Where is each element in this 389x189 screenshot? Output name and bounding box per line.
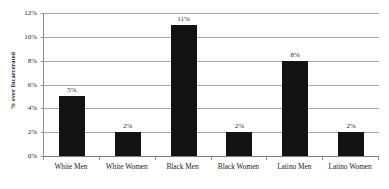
y-axis-tick-label: 12% — [24, 9, 37, 17]
x-axis-tick-mark — [211, 156, 212, 160]
bar-value-label: 2% — [123, 122, 132, 130]
bar — [226, 132, 252, 156]
x-axis-category-label: Black Women — [218, 162, 259, 171]
bar — [171, 25, 197, 156]
x-axis-category-label: White Men — [54, 162, 87, 171]
bar-value-label: 8% — [291, 51, 300, 59]
bar-chart: % ever Incarcerated 0%2%4%6%8%10%12% 5%2… — [0, 0, 389, 189]
bar — [338, 132, 364, 156]
y-axis-tick-label: 10% — [24, 33, 37, 41]
x-axis-tick-mark — [322, 156, 323, 160]
bar — [59, 96, 85, 156]
plot-area: 5%2%11%2%8%2% — [43, 13, 379, 156]
bar — [282, 61, 308, 156]
y-axis-tick-label: 0% — [28, 152, 37, 160]
x-axis-labels: White MenWhite WomenBlack MenBlack Women… — [43, 162, 378, 182]
bar-group: 2% — [100, 13, 156, 156]
bars-layer: 5%2%11%2%8%2% — [44, 13, 379, 156]
y-axis-tick-labels: 0%2%4%6%8%10%12% — [18, 0, 40, 189]
y-axis-tick-label: 2% — [28, 128, 37, 136]
x-axis-tick-mark — [155, 156, 156, 160]
x-axis-tick-mark — [99, 156, 100, 160]
bar-group: 11% — [156, 13, 212, 156]
bar-group: 2% — [323, 13, 379, 156]
x-axis-category-label: Latino Men — [277, 162, 311, 171]
bar-group: 2% — [212, 13, 268, 156]
bar-value-label: 2% — [346, 122, 355, 130]
y-axis-tick-label: 8% — [28, 57, 37, 65]
x-axis-tick-mark — [266, 156, 267, 160]
x-axis-category-label: Black Men — [166, 162, 198, 171]
x-axis-tick-mark — [43, 156, 44, 160]
bar — [115, 132, 141, 156]
bar-group: 5% — [44, 13, 100, 156]
y-axis-tick-label: 6% — [28, 81, 37, 89]
bar-value-label: 5% — [67, 86, 76, 94]
x-axis-tick-mark — [378, 156, 379, 160]
x-axis-category-label: White Women — [106, 162, 148, 171]
bar-value-label: 2% — [235, 122, 244, 130]
bar-value-label: 11% — [177, 15, 190, 23]
bar-group: 8% — [267, 13, 323, 156]
y-axis-tick-label: 4% — [28, 104, 37, 112]
y-axis-title-text: % ever Incarcerated — [10, 51, 17, 108]
x-axis-category-label: Latino Women — [328, 162, 371, 171]
